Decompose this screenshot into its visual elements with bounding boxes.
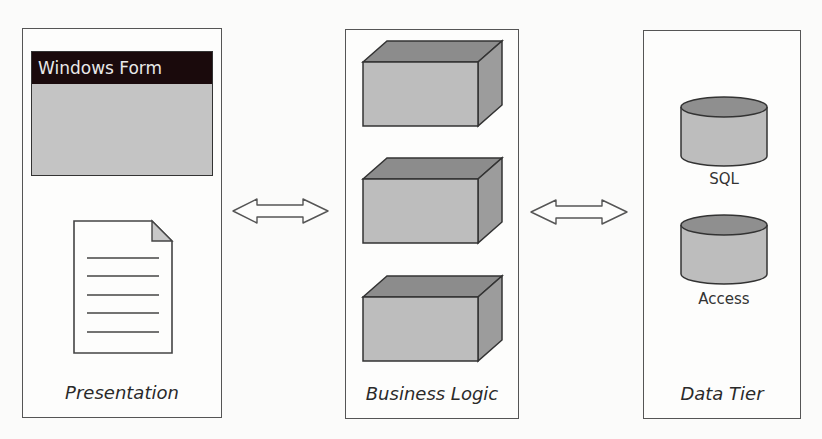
bidirectional-arrow-icon [530,199,628,225]
presentation-label: Presentation [23,382,221,403]
business-component-box-icon [362,157,504,245]
business-component-box-icon [362,40,504,128]
bidirectional-arrow-icon [232,198,329,224]
sql-database-label: SQL [680,170,768,188]
windows-form-title: Windows Form [32,52,212,84]
access-database-label: Access [680,290,768,308]
database-cylinder-icon [680,214,768,286]
document-icon [73,220,173,354]
business-logic-label: Business Logic [346,383,518,404]
database-cylinder-icon [680,96,768,168]
data-tier-label: Data Tier [644,383,800,404]
business-component-box-icon [362,275,504,363]
windows-form: Windows Form [31,51,213,176]
